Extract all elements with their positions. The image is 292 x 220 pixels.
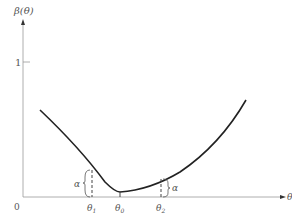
theta2-label: θ2	[156, 203, 165, 214]
theta1-label: θ1	[87, 203, 96, 214]
power-curve	[40, 100, 246, 192]
y-tick-label-1: 1	[15, 57, 21, 68]
y-axis-arrow-icon	[21, 19, 25, 25]
power-function-chart: 1 β(θ) θ 0 α α θ1 θ0 θ2	[0, 0, 292, 220]
theta0-label: θ0	[115, 203, 124, 214]
x-axis-arrow-icon	[280, 195, 286, 199]
alpha-left-brace	[83, 170, 90, 197]
alpha-right-label: α	[172, 183, 178, 193]
alpha-left-label: α	[74, 179, 80, 189]
origin-label: 0	[14, 202, 20, 212]
x-axis-label: θ	[287, 192, 292, 202]
alpha-right-brace	[163, 179, 170, 197]
y-axis-label: β(θ)	[13, 5, 34, 16]
